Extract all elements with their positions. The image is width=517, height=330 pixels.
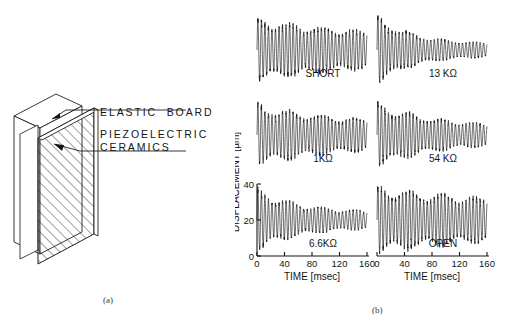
label-piezoelectric-ceramics: PIEZOELECTRICCERAMICS bbox=[100, 128, 208, 153]
panel-a-schematic: ELASTIC BOARD PIEZOELECTRICCERAMICS (a) bbox=[0, 0, 235, 330]
trace-label-SHORT: SHORT bbox=[306, 68, 341, 79]
waveform-plot-grid: SHORT13 KΩ1KΩ54 KΩ04080120160TIME [msec]… bbox=[235, 0, 517, 300]
trace-label-13K: 13 KΩ bbox=[429, 68, 458, 79]
label-piezoelectric-line-1: PIEZOELECTRIC bbox=[100, 128, 208, 140]
trace-label-OPEN: OPEN bbox=[429, 238, 457, 249]
y-tick-label-2: 40 bbox=[243, 179, 254, 190]
trace-label-1K: 1KΩ bbox=[313, 153, 333, 164]
label-piezoelectric-line-2: CERAMICS bbox=[100, 141, 171, 153]
x-axis-title-6.6K: TIME [msec] bbox=[284, 271, 340, 282]
x-tick-label-OPEN-3: 120 bbox=[452, 258, 468, 269]
trace-label-54K: 54 KΩ bbox=[429, 153, 458, 164]
plot-cell-SHORT: SHORT bbox=[257, 18, 367, 81]
caption-panel-a: (a) bbox=[103, 295, 113, 305]
plot-cell-1K: 1KΩ bbox=[257, 102, 367, 165]
elastic-board-inner-edge bbox=[20, 125, 38, 259]
x-tick-label-OPEN-2: 80 bbox=[427, 258, 438, 269]
x-axis-title-OPEN: TIME [msec] bbox=[404, 271, 460, 282]
x-tick-label-6.6K-2: 80 bbox=[307, 258, 318, 269]
x-tick-label-6.6K-1: 40 bbox=[279, 258, 290, 269]
plot-cell-54K: 54 KΩ bbox=[377, 101, 487, 166]
caption-panel-b: (b) bbox=[372, 305, 383, 315]
x-tick-label-6.6K-3: 120 bbox=[332, 258, 348, 269]
trace-label-6.6K: 6.6KΩ bbox=[309, 238, 338, 249]
label-elastic-board: ELASTIC BOARD bbox=[100, 106, 214, 119]
x-tick-label-OPEN-4: 160 bbox=[479, 258, 495, 269]
x-tick-label-OPEN-0: 0 bbox=[374, 258, 379, 269]
waveform-trace-1K bbox=[257, 102, 367, 164]
plot-cell-OPEN: 04080120160TIME [msec]OPEN bbox=[374, 186, 495, 282]
plot-cell-6.6K: 04080120160TIME [msec]02040DISPLACEMENT … bbox=[235, 132, 375, 282]
y-tick-label-1: 20 bbox=[243, 215, 254, 226]
x-tick-label-OPEN-1: 40 bbox=[399, 258, 410, 269]
x-tick-label-6.6K-0: 0 bbox=[254, 258, 259, 269]
y-axis-title: DISPLACEMENT [µm] bbox=[235, 132, 241, 232]
plot-cell-13K: 13 KΩ bbox=[377, 15, 487, 83]
panel-b-waveforms: SHORT13 KΩ1KΩ54 KΩ04080120160TIME [msec]… bbox=[235, 0, 517, 330]
y-tick-label-0: 0 bbox=[249, 251, 254, 262]
x-tick-label-6.6K-4: 160 bbox=[359, 258, 375, 269]
